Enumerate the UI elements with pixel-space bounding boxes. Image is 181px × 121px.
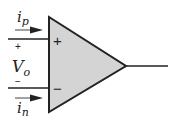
ip-arrow-icon bbox=[15, 27, 43, 34]
opamp-minus-sign: − bbox=[53, 80, 62, 97]
vo-plus-sign: + bbox=[15, 41, 21, 52]
vo-minus-sign: − bbox=[15, 76, 21, 87]
opamp-diagram: + − ip + Vo − in bbox=[0, 0, 181, 121]
in-label: in bbox=[17, 99, 29, 119]
opamp-plus-sign: + bbox=[53, 32, 62, 49]
ip-label: ip bbox=[17, 8, 29, 28]
